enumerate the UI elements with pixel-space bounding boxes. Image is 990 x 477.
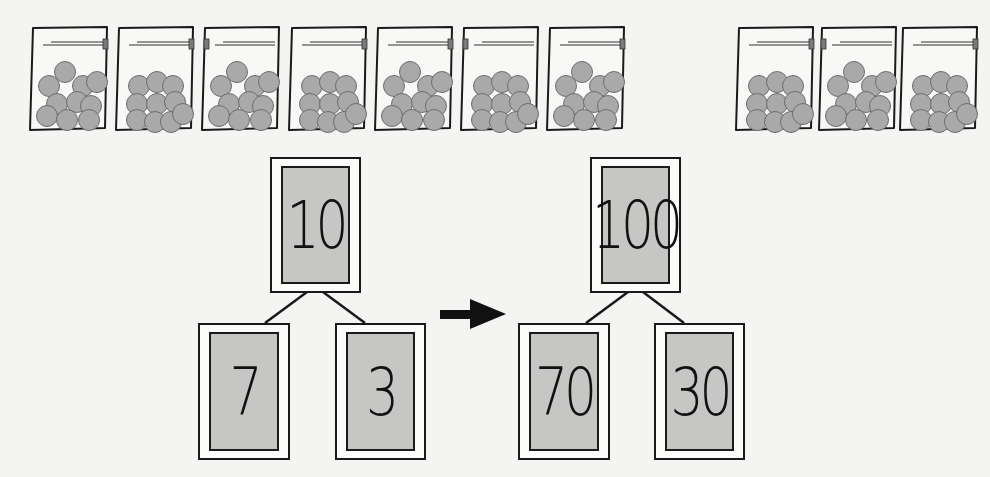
bag-icon xyxy=(372,24,458,134)
part-box-left-2: 3 xyxy=(335,323,426,460)
part-number-right-1: 70 xyxy=(535,354,593,429)
whole-box-right: 100 xyxy=(590,157,681,293)
bag-icon xyxy=(897,24,983,134)
bag-icon xyxy=(286,24,372,134)
whole-box-left: 10 xyxy=(270,157,361,293)
part-box-left-1: 7 xyxy=(198,323,290,460)
whole-number-right: 100 xyxy=(592,188,679,263)
part-box-right-2: 30 xyxy=(654,323,745,460)
bag-icon xyxy=(733,24,819,134)
bag-of-balls xyxy=(458,24,544,134)
bag-of-balls xyxy=(113,24,199,134)
bag-of-balls xyxy=(897,24,983,134)
bag-of-balls xyxy=(286,24,372,134)
bag-icon xyxy=(199,24,285,134)
whole-number-left: 10 xyxy=(286,188,344,263)
bag-icon xyxy=(113,24,199,134)
bag-of-balls xyxy=(544,24,630,134)
part-number-right-2: 30 xyxy=(670,354,728,429)
part-number-left-1: 7 xyxy=(229,354,258,429)
bag-of-balls xyxy=(733,24,819,134)
bag-of-balls xyxy=(199,24,285,134)
right-arrow-icon xyxy=(440,299,506,329)
bag-of-balls xyxy=(816,24,902,134)
bag-of-balls xyxy=(27,24,113,134)
part-number-left-2: 3 xyxy=(366,354,395,429)
bag-icon xyxy=(27,24,113,134)
bag-icon xyxy=(816,24,902,134)
bag-icon xyxy=(544,24,630,134)
bag-of-balls xyxy=(372,24,458,134)
part-box-right-1: 70 xyxy=(518,323,610,460)
bag-icon xyxy=(458,24,544,134)
